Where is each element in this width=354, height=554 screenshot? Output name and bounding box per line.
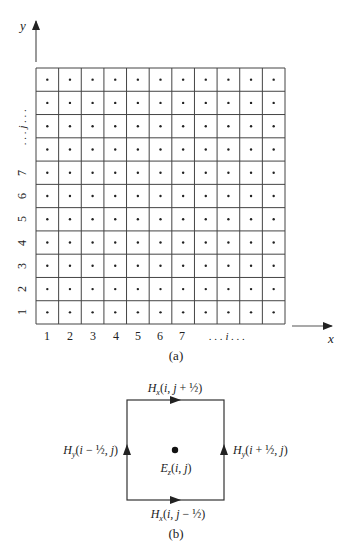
grid-dot [159, 78, 161, 80]
grid-dot [91, 265, 93, 267]
grid-dot [91, 241, 93, 243]
grid-dot [227, 125, 229, 127]
label-hx-top: Hx(i, j + ½) [147, 381, 203, 397]
grid-dot [69, 218, 71, 220]
grid-dot [137, 241, 139, 243]
grid-dot [159, 241, 161, 243]
grid-dot [182, 172, 184, 174]
grid-dot [227, 102, 229, 104]
grid-dot [159, 265, 161, 267]
grid-dot [91, 195, 93, 197]
grid-dot [69, 102, 71, 104]
grid-dot [272, 311, 274, 313]
grid-dot [46, 148, 48, 150]
grid-dot [205, 241, 207, 243]
grid-dot [272, 288, 274, 290]
grid-dot [114, 218, 116, 220]
grid-dot [114, 125, 116, 127]
grid-dot [137, 218, 139, 220]
grid-dot [250, 218, 252, 220]
y-axis-label: y [18, 18, 26, 33]
grid-dot [227, 78, 229, 80]
grid-dot [250, 288, 252, 290]
grid-dot [159, 288, 161, 290]
arrow-right-up-icon [220, 444, 228, 455]
grid-dot [250, 125, 252, 127]
grid-dot [69, 125, 71, 127]
grid-dot [227, 288, 229, 290]
y-tick-ellipsis: . . . j . . . [16, 109, 28, 145]
grid-dot [205, 125, 207, 127]
x-tick: 5 [135, 329, 141, 343]
grid-dot [114, 102, 116, 104]
grid-dot [182, 125, 184, 127]
grid-dot [272, 241, 274, 243]
grid-dot [250, 172, 252, 174]
grid-dot [69, 172, 71, 174]
grid-dot [205, 195, 207, 197]
grid-dot [159, 218, 161, 220]
grid-dot [114, 311, 116, 313]
grid-dot [182, 265, 184, 267]
grid-dot [272, 195, 274, 197]
grid-dot [205, 102, 207, 104]
grid-dot [137, 172, 139, 174]
grid-dot [205, 78, 207, 80]
grid-dot [159, 125, 161, 127]
caption-b: (b) [168, 526, 183, 541]
grid-dot [46, 125, 48, 127]
grid-dot [137, 78, 139, 80]
grid-dot [272, 218, 274, 220]
grid-dot [46, 195, 48, 197]
grid-dot [69, 311, 71, 313]
grid-dot [227, 311, 229, 313]
figure-b: Hx(i, j + ½) Hx(i, j − ½) Hy(i − ½, j) H… [62, 381, 287, 541]
y-tick: 2 [15, 286, 29, 292]
grid-dot [182, 218, 184, 220]
grid-dot [91, 78, 93, 80]
figure-a: y x 1 2 3 4 5 6 7 . . . i . . . 1 2 3 4 … [15, 18, 334, 363]
grid-dot [137, 125, 139, 127]
grid-dot [250, 311, 252, 313]
grid-dot [250, 148, 252, 150]
grid-dot [69, 148, 71, 150]
grid-dot [114, 265, 116, 267]
grid-dot [91, 148, 93, 150]
grid-dot [137, 288, 139, 290]
arrow-left-up-icon [123, 444, 131, 455]
arrow-top-right-icon [170, 396, 181, 404]
grid-dot [250, 265, 252, 267]
x-tick: 2 [67, 329, 73, 343]
x-tick: 6 [157, 329, 163, 343]
arrow-bottom-right-icon [170, 496, 181, 504]
grid-dot [159, 148, 161, 150]
y-tick: 1 [15, 309, 29, 315]
y-tick: 4 [15, 240, 29, 246]
grid-dot [159, 172, 161, 174]
ez-node-dot [172, 447, 178, 453]
grid-dot [227, 195, 229, 197]
grid-dot [91, 311, 93, 313]
grid-dot [227, 218, 229, 220]
grid-dot [182, 148, 184, 150]
grid-dot [227, 241, 229, 243]
grid-dot [250, 195, 252, 197]
grid-dot [114, 148, 116, 150]
label-hy-right: Hy(i + ½, j) [232, 443, 288, 459]
grid-dot [182, 102, 184, 104]
grid-center-dots [46, 78, 275, 313]
x-tick: 1 [44, 329, 50, 343]
grid-dot [46, 311, 48, 313]
x-tick-labels: 1 2 3 4 5 6 7 . . . i . . . [44, 329, 245, 343]
grid-dot [182, 78, 184, 80]
caption-a: (a) [169, 348, 183, 363]
grid-dot [272, 265, 274, 267]
grid-dot [91, 288, 93, 290]
y-tick: 3 [15, 263, 29, 269]
grid-dot [250, 78, 252, 80]
grid-dot [69, 265, 71, 267]
grid-dot [137, 195, 139, 197]
label-hy-left: Hy(i − ½, j) [62, 443, 118, 459]
grid-dot [114, 195, 116, 197]
grid-dot [137, 265, 139, 267]
